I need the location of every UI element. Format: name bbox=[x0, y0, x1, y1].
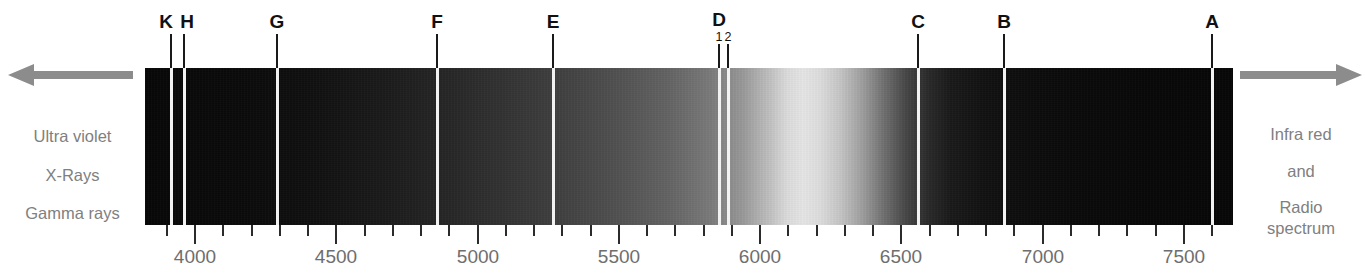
fraunhofer-sublabel-d1: 1 bbox=[716, 31, 723, 44]
axis-tick-major bbox=[335, 225, 337, 244]
fraunhofer-leader-c bbox=[917, 34, 919, 68]
axis-tick-label: 6500 bbox=[880, 247, 922, 266]
axis-tick-minor bbox=[251, 225, 253, 236]
axis-tick-minor bbox=[1211, 225, 1213, 236]
axis-tick-major bbox=[194, 225, 196, 244]
axis-tick-minor bbox=[505, 225, 507, 236]
fraunhofer-leader-h bbox=[183, 34, 185, 68]
axis-tick-label: 4000 bbox=[174, 247, 216, 266]
axis-tick-label: 5000 bbox=[457, 247, 499, 266]
fraunhofer-line-h bbox=[183, 68, 186, 225]
axis-tick-minor bbox=[307, 225, 309, 236]
axis-tick-minor bbox=[957, 225, 959, 236]
fraunhofer-line-b bbox=[1003, 68, 1006, 225]
arrow-left-row bbox=[0, 60, 145, 94]
axis-tick-major bbox=[1183, 225, 1185, 244]
axis-tick-minor bbox=[646, 225, 648, 236]
fraunhofer-line-a bbox=[1211, 68, 1214, 225]
axis-tick-minor bbox=[533, 225, 535, 236]
arrow-right-icon bbox=[1240, 60, 1362, 90]
axis-tick-minor bbox=[1155, 225, 1157, 236]
axis-tick-major bbox=[900, 225, 902, 244]
left-annotation-line-0: Ultra violet bbox=[0, 128, 145, 145]
axis-tick-label: 7500 bbox=[1163, 247, 1205, 266]
axis-tick-major bbox=[477, 225, 479, 244]
fraunhofer-line-c bbox=[917, 68, 920, 225]
fraunhofer-label-f: F bbox=[431, 12, 443, 31]
axis-tick-label: 7000 bbox=[1022, 247, 1064, 266]
fraunhofer-label-g: G bbox=[270, 12, 285, 31]
axis-tick-minor bbox=[1126, 225, 1128, 236]
axis-tick-minor bbox=[1013, 225, 1015, 236]
fraunhofer-line-g bbox=[276, 68, 279, 225]
axis-tick-minor bbox=[929, 225, 931, 236]
fraunhofer-leader-a bbox=[1211, 34, 1213, 68]
fraunhofer-label-d: D bbox=[712, 10, 726, 29]
fraunhofer-sublabel-d2: 2 bbox=[725, 31, 732, 44]
axis-tick-minor bbox=[392, 225, 394, 236]
right-annotation: Infra red and Radio spectrum bbox=[1236, 60, 1366, 236]
fraunhofer-label-b: B bbox=[997, 12, 1011, 31]
axis-tick-minor bbox=[590, 225, 592, 236]
fraunhofer-leader-e bbox=[552, 34, 554, 68]
fraunhofer-line-d bbox=[718, 68, 721, 225]
arrow-left-icon bbox=[8, 60, 133, 90]
left-annotation-line-1: X-Rays bbox=[0, 167, 145, 184]
axis-tick-minor bbox=[872, 225, 874, 236]
fraunhofer-label-c: C bbox=[911, 12, 925, 31]
fraunhofer-leader-d2 bbox=[727, 44, 729, 68]
fraunhofer-label-e: E bbox=[547, 12, 560, 31]
axis-tick-minor bbox=[448, 225, 450, 236]
axis-tick-minor bbox=[731, 225, 733, 236]
arrow-right-row bbox=[1236, 60, 1366, 94]
fraunhofer-leader-d bbox=[718, 44, 720, 68]
axis-tick-minor bbox=[787, 225, 789, 236]
spectrum-figure: Ultra violet X-Rays Gamma rays Infra red… bbox=[0, 0, 1366, 274]
left-annotation-line-2: Gamma rays bbox=[0, 205, 145, 222]
fraunhofer-label-k: K bbox=[159, 12, 173, 31]
fraunhofer-label-a: A bbox=[1205, 12, 1219, 31]
axis-tick-minor bbox=[364, 225, 366, 236]
axis-tick-minor bbox=[674, 225, 676, 236]
fraunhofer-line-e bbox=[552, 68, 555, 225]
fraunhofer-leader-k bbox=[170, 34, 172, 68]
right-annotation-line-2: Radio bbox=[1236, 199, 1366, 216]
axis-tick-label: 5500 bbox=[598, 247, 640, 266]
fraunhofer-line-d2 bbox=[727, 68, 730, 225]
axis-tick-minor bbox=[222, 225, 224, 236]
axis-tick-major bbox=[1042, 225, 1044, 244]
right-annotation-line-0: Infra red bbox=[1236, 126, 1366, 143]
right-annotation-line-1: and bbox=[1236, 163, 1366, 180]
axis-tick-label: 4500 bbox=[315, 247, 357, 266]
fraunhofer-label-h: H bbox=[180, 12, 194, 31]
axis-tick-minor bbox=[561, 225, 563, 236]
axis-tick-minor bbox=[420, 225, 422, 236]
fraunhofer-leader-g bbox=[276, 34, 278, 68]
left-annotation: Ultra violet X-Rays Gamma rays bbox=[0, 60, 145, 222]
fraunhofer-line-f bbox=[436, 68, 439, 225]
axis-tick-label: 6000 bbox=[739, 247, 781, 266]
spectrum-gradient bbox=[145, 68, 1233, 225]
wavelength-axis: 40004500500055006000650070007500 bbox=[0, 225, 1366, 274]
axis-tick-major bbox=[759, 225, 761, 244]
axis-tick-minor bbox=[703, 225, 705, 236]
fraunhofer-leader-b bbox=[1003, 34, 1005, 68]
axis-tick-minor bbox=[985, 225, 987, 236]
axis-tick-minor bbox=[1098, 225, 1100, 236]
axis-tick-minor bbox=[816, 225, 818, 236]
axis-tick-minor bbox=[844, 225, 846, 236]
axis-tick-major bbox=[618, 225, 620, 244]
spectrum-band bbox=[145, 68, 1233, 225]
axis-tick-minor bbox=[1070, 225, 1072, 236]
fraunhofer-line-k bbox=[170, 68, 173, 225]
axis-tick-minor bbox=[166, 225, 168, 236]
fraunhofer-leader-f bbox=[436, 34, 438, 68]
axis-tick-minor bbox=[279, 225, 281, 236]
